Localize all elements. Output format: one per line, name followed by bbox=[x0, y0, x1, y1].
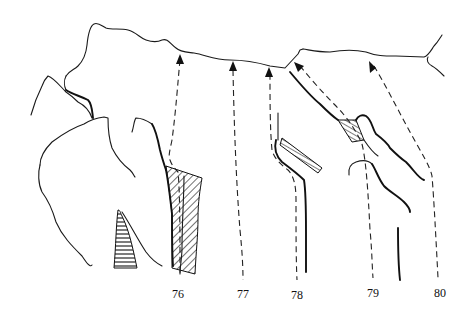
route-label-77: 77 bbox=[237, 287, 249, 301]
central-pillar-lines bbox=[132, 118, 173, 266]
lower-right-rock-lines bbox=[349, 161, 410, 280]
route-label-79: 79 bbox=[367, 286, 379, 300]
route-80-line bbox=[369, 61, 438, 278]
route-78-arrow-icon bbox=[265, 67, 273, 77]
route-78-line bbox=[265, 67, 297, 280]
route-79-arrow-icon bbox=[294, 62, 304, 72]
route-label-80: 80 bbox=[434, 286, 446, 300]
route-77-arrow-icon bbox=[229, 61, 237, 71]
route-76-arrow-icon bbox=[176, 54, 184, 64]
pillar-78-lines bbox=[275, 113, 306, 272]
route-topo-diagram: 76 77 78 79 80 bbox=[0, 0, 458, 317]
route-label-76: 76 bbox=[172, 287, 184, 301]
route-77-line bbox=[229, 61, 243, 280]
route-label-78: 78 bbox=[291, 288, 303, 302]
hatched-triangle-left bbox=[114, 210, 162, 268]
summit-ridge-line bbox=[66, 23, 444, 76]
route-80-arrow-icon bbox=[369, 61, 376, 73]
route-labels: 76 77 78 79 80 bbox=[172, 286, 446, 302]
hatched-ramp-78 bbox=[280, 138, 322, 173]
